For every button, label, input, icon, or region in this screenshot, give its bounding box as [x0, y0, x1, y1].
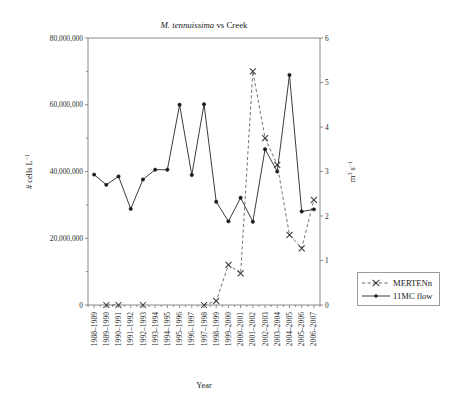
x-tick-label: 1990–1991 [114, 312, 123, 346]
x-tick-label: 1994–1995 [163, 312, 172, 346]
x-tick-label: 2002–2003 [261, 312, 270, 346]
x-tick-label: 1993–1994 [151, 312, 160, 346]
data-point-mertenn [213, 298, 219, 304]
data-point-11mc-flow [141, 178, 144, 181]
data-point-11mc-flow [263, 148, 266, 151]
legend-label-11mc-flow: 11MC flow [390, 291, 433, 301]
y-right-tick-label: 3 [325, 167, 329, 176]
y-left-tick-label: 0 [79, 301, 83, 310]
data-point-mertenn [225, 262, 231, 268]
chart-title-rest: vs Creek [214, 20, 248, 30]
x-tick-label: 2004–2005 [285, 312, 294, 346]
x-tick-label: 2000–2001 [236, 312, 245, 346]
data-point-11mc-flow [190, 173, 193, 176]
y-right-tick-label: 1 [325, 256, 329, 265]
x-tick-label: 1989–1990 [102, 312, 111, 346]
data-point-11mc-flow [153, 168, 156, 171]
x-tick-label: 1992–1993 [139, 312, 148, 346]
data-point-11mc-flow [312, 208, 315, 211]
y-right-tick-label: 0 [325, 301, 329, 310]
chart-legend: MERTENn 11MC flow [357, 272, 440, 306]
y-right-tick-label: 4 [325, 123, 329, 132]
x-tick-label: 1997–1998 [200, 312, 209, 346]
x-tick-label: 1998–1999 [212, 312, 221, 346]
y-right-tick-label: 6 [325, 34, 329, 43]
y-right-tick-label: 2 [325, 212, 329, 221]
x-tick-label: 1991–1992 [126, 312, 135, 346]
chart-title: M. tennuissima vs Creek [160, 20, 249, 30]
data-point-mertenn [299, 245, 305, 251]
x-tick-label: 1999–2000 [224, 312, 233, 346]
x-tick-label: 2005–2006 [297, 312, 306, 346]
dot-marker [374, 294, 377, 297]
data-point-11mc-flow [300, 210, 303, 213]
data-point-11mc-flow [251, 220, 254, 223]
chart-canvas: 020,000,00040,000,00060,000,00080,000,00… [0, 0, 450, 400]
data-point-11mc-flow [166, 168, 169, 171]
data-point-mertenn [311, 197, 317, 203]
y-right-tick-label: 5 [325, 78, 329, 87]
data-point-mertenn [262, 135, 268, 141]
y-left-tick-label: 60,000,000 [50, 100, 84, 109]
x-tick-label: 2001–2002 [248, 312, 257, 346]
plot-frame [88, 38, 320, 305]
legend-item-mertenn[interactable]: MERTENn [362, 276, 433, 289]
data-point-11mc-flow [105, 183, 108, 186]
y-left-axis-title: # cells L−1 [24, 154, 34, 189]
data-point-11mc-flow [129, 207, 132, 210]
data-point-11mc-flow [288, 73, 291, 76]
y-left-tick-label: 40,000,000 [50, 167, 84, 176]
legend-item-11mc-flow[interactable]: 11MC flow [362, 289, 433, 302]
data-point-11mc-flow [92, 173, 95, 176]
x-tick-label: 2003–2004 [273, 312, 282, 346]
data-point-11mc-flow [215, 200, 218, 203]
data-point-11mc-flow [178, 103, 181, 106]
x-axis-title: Year [196, 381, 212, 390]
legend-swatch-11mc-flow [362, 291, 390, 301]
x-tick-label: 2006–2007 [309, 312, 318, 346]
data-point-11mc-flow [239, 196, 242, 199]
y-right-axis-title: m3 s−1 [347, 161, 357, 182]
data-point-11mc-flow [227, 220, 230, 223]
x-tick-label: 1996–1997 [187, 312, 196, 346]
x-tick-label: 1988–1989 [90, 312, 99, 346]
data-point-mertenn [274, 162, 280, 168]
data-point-11mc-flow [202, 103, 205, 106]
y-left-tick-label: 20,000,000 [50, 234, 84, 243]
data-point-11mc-flow [117, 175, 120, 178]
chart-title-species: M. tennuissima [160, 20, 215, 30]
legend-swatch-mertenn [362, 278, 390, 288]
series-line-mertenn [106, 71, 314, 305]
chart-figure: 020,000,00040,000,00060,000,00080,000,00… [0, 0, 450, 400]
legend-label-mertenn: MERTENn [390, 278, 432, 288]
series-line-11mc-flow [94, 75, 314, 222]
y-left-tick-label: 80,000,000 [50, 34, 84, 43]
x-tick-label: 1995–1996 [175, 312, 184, 346]
